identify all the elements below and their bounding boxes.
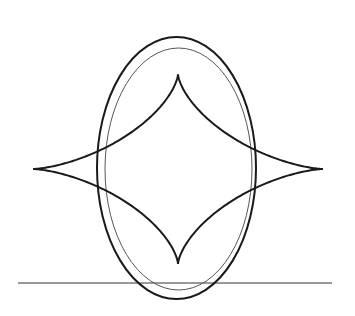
- diagram-canvas: [0, 0, 355, 316]
- astroid-star-curve: [33, 74, 323, 264]
- inner-ellipse: [105, 48, 252, 290]
